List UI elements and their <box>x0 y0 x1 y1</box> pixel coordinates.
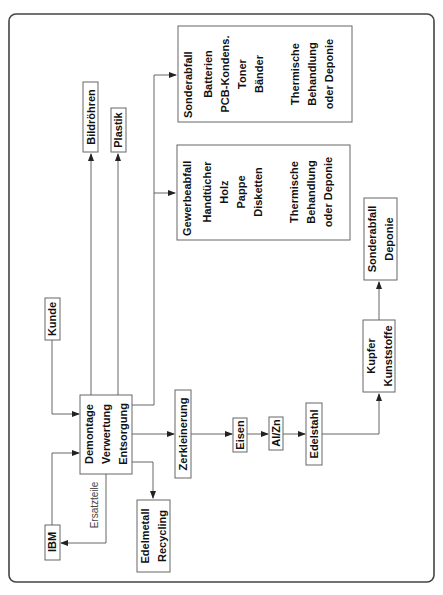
svg-text:oder Deponie: oder Deponie <box>322 157 334 227</box>
svg-text:Behandlung: Behandlung <box>305 160 317 224</box>
edge-ibm-center <box>52 453 79 525</box>
svg-text:Thermische: Thermische <box>289 43 301 105</box>
svg-text:Edelstahl: Edelstahl <box>308 410 320 459</box>
svg-text:Verwertung: Verwertung <box>100 404 112 464</box>
svg-text:Sonderabfall: Sonderabfall <box>182 51 194 118</box>
svg-text:Batterien: Batterien <box>202 50 214 98</box>
recycling-flow-diagram: Demontage Verwertung Entsorgung Kunde IB… <box>0 0 443 595</box>
edge-center-edelmetall <box>132 462 153 498</box>
svg-text:Gewerbeabfall: Gewerbeabfall <box>181 161 193 236</box>
alzn-label: Al/Zn <box>270 419 282 447</box>
edge-kunde-center <box>52 340 79 414</box>
svg-text:Bänder: Bänder <box>253 54 265 93</box>
svg-text:Pappe: Pappe <box>235 175 247 208</box>
zerkleinerung-label: Zerkleinerung <box>177 398 189 471</box>
svg-text:Bildröhren: Bildröhren <box>85 89 97 145</box>
svg-text:Holz: Holz <box>218 180 230 204</box>
svg-text:Plastik: Plastik <box>112 111 124 147</box>
svg-text:Recycling: Recycling <box>156 510 168 562</box>
svg-text:Zerkleinerung: Zerkleinerung <box>177 398 189 471</box>
svg-text:Demontage: Demontage <box>83 404 95 464</box>
svg-text:Handtücher: Handtücher <box>201 161 213 223</box>
svg-text:Kunde: Kunde <box>46 302 58 336</box>
svg-text:Al/Zn: Al/Zn <box>270 419 282 447</box>
svg-text:Toner: Toner <box>236 58 248 88</box>
svg-text:Ersatzteile: Ersatzteile <box>89 481 100 528</box>
svg-text:IBM: IBM <box>46 532 58 552</box>
svg-text:Entsorgung: Entsorgung <box>117 403 129 465</box>
eisen-label: Eisen <box>234 420 246 450</box>
svg-text:Eisen: Eisen <box>234 420 246 450</box>
svg-text:PCB-Kondens.: PCB-Kondens. <box>219 36 231 113</box>
kunde-label: Kunde <box>46 302 58 336</box>
ersatzteile-label: Ersatzteile <box>89 481 100 528</box>
svg-text:Deponie: Deponie <box>383 217 395 260</box>
bildroehren-label: Bildröhren <box>85 89 97 145</box>
svg-text:Edelmetall: Edelmetall <box>139 508 151 563</box>
svg-text:Kupfer: Kupfer <box>365 338 377 374</box>
edelstahl-label: Edelstahl <box>308 410 320 459</box>
svg-text:Behandlung: Behandlung <box>306 42 318 106</box>
svg-text:Sonderabfall: Sonderabfall <box>366 206 378 273</box>
svg-text:Thermische: Thermische <box>288 161 300 223</box>
center-label: Demontage Verwertung Entsorgung <box>83 403 129 465</box>
svg-text:Kunststoffe: Kunststoffe <box>382 325 394 386</box>
ibm-label: IBM <box>46 532 58 552</box>
svg-text:Disketten: Disketten <box>252 167 264 217</box>
edge-center-sonderabfall <box>132 75 176 405</box>
plastik-label: Plastik <box>112 111 124 147</box>
edge-edelstahl-kupfer <box>322 394 379 434</box>
svg-text:oder Deponie: oder Deponie <box>323 39 335 109</box>
